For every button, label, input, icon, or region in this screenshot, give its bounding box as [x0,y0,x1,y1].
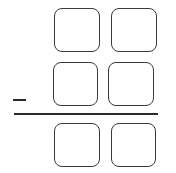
minuend-ones-box[interactable] [111,8,157,52]
sum-rule-line [14,113,158,115]
difference-tens-box[interactable] [54,123,100,167]
minus-sign [13,99,26,101]
subtrahend-ones-box[interactable] [108,62,154,106]
minuend-tens-box[interactable] [54,8,100,52]
subtrahend-tens-box[interactable] [53,62,98,106]
difference-ones-box[interactable] [111,123,156,167]
